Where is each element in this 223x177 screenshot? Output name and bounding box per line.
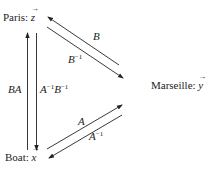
- node-marseille-name: Marseille:: [151, 79, 196, 91]
- node-paris: Paris: z: [3, 12, 35, 23]
- arrow-b-inverse: [47, 27, 123, 78]
- node-boat-vector: x: [32, 152, 37, 163]
- node-paris-vector: z: [31, 12, 35, 23]
- label-a: A: [78, 116, 85, 127]
- label-a-inv-b-inv: A−1B−1: [40, 84, 68, 95]
- label-a-inverse-base: A: [89, 130, 96, 142]
- node-boat: Boat: x: [5, 152, 36, 163]
- label-ab-base2: B: [54, 83, 61, 95]
- label-b-inverse-base: B: [68, 53, 75, 65]
- label-a-text: A: [78, 115, 85, 127]
- arrow-a-inverse: [49, 115, 122, 158]
- label-ba-text: BA: [8, 83, 21, 95]
- label-b: B: [93, 31, 100, 42]
- arrow-b: [48, 17, 119, 65]
- node-marseille-vector: y: [198, 80, 203, 91]
- label-a-inverse-exp: −1: [96, 130, 103, 138]
- node-marseille: Marseille: y: [151, 80, 203, 91]
- label-ba: BA: [8, 84, 21, 95]
- label-ab-exp2: −1: [61, 83, 68, 91]
- arrow-a: [47, 105, 122, 149]
- label-a-inverse: A−1: [89, 131, 103, 142]
- label-b-inverse: B−1: [68, 54, 82, 65]
- node-boat-name: Boat:: [5, 151, 29, 163]
- label-b-inverse-exp: −1: [75, 53, 82, 61]
- label-b-text: B: [93, 30, 100, 42]
- node-paris-name: Paris:: [3, 11, 28, 23]
- label-ab-base1: A: [40, 83, 47, 95]
